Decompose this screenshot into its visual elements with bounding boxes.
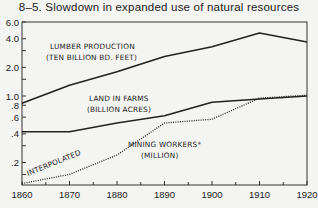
- annotation-farms-line2: (BILLION ACRES): [87, 105, 151, 114]
- x-tick-label: 1860: [11, 189, 32, 200]
- x-tick-label: 1900: [201, 189, 222, 200]
- annotation-mining-line2: (MILLION): [141, 151, 178, 160]
- land-in-farms-line: [22, 96, 307, 132]
- annotation-lumber-line2: (TEN BILLION BD. FEET): [46, 53, 137, 62]
- annotation-mining-line1: MINING WORKERS*: [128, 140, 201, 149]
- x-tick-label: 1910: [249, 189, 270, 200]
- annotations: LUMBER PRODUCTION (TEN BILLION BD. FEET)…: [25, 42, 201, 178]
- y-tick-label: 2.0: [6, 62, 19, 73]
- x-tick-label: 1920: [296, 189, 317, 200]
- annotation-lumber-line1: LUMBER PRODUCTION: [50, 42, 135, 51]
- annotation-interpolated: INTERPOLATED: [25, 148, 82, 178]
- chart-plot: 6.04.02.01.0.8.6.4.2 1860187018801890190…: [0, 0, 318, 208]
- y-tick-label: .8: [11, 100, 19, 111]
- y-tick-label: .2: [11, 157, 19, 168]
- x-tick-label: 1870: [59, 189, 80, 200]
- x-tick-label: 1880: [106, 189, 127, 200]
- y-tick-label: .6: [11, 112, 19, 123]
- y-tick-label: 4.0: [6, 33, 19, 44]
- x-axis-ticks: 1860187018801890190019101920: [11, 181, 317, 200]
- y-axis-ticks: 6.04.02.01.0.8.6.4.2: [6, 17, 26, 175]
- x-tick-label: 1890: [154, 189, 175, 200]
- y-tick-label: 6.0: [6, 17, 19, 28]
- y-tick-label: .4: [11, 128, 19, 139]
- annotation-farms-line1: LAND IN FARMS: [89, 94, 149, 103]
